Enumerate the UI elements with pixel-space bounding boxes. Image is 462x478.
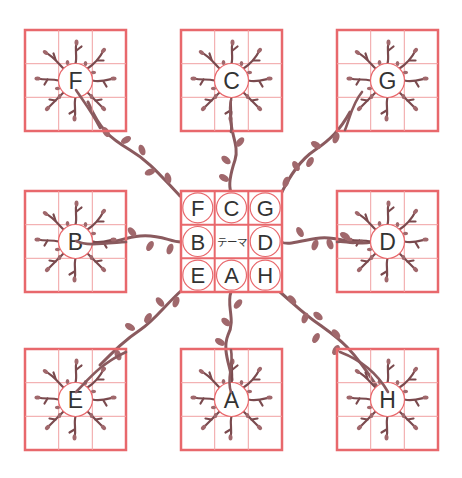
outer-box-h: H [337, 349, 438, 450]
vine-f [88, 102, 180, 196]
box-label: G [379, 68, 397, 94]
center-cell-h: H [250, 260, 280, 290]
mandala-diagram: F C G [0, 0, 462, 478]
box-label: E [68, 387, 83, 413]
vine-g [280, 112, 350, 196]
svg-text:B: B [190, 230, 205, 255]
svg-text:A: A [224, 263, 239, 288]
svg-text:C: C [224, 196, 240, 221]
svg-text:D: D [257, 230, 273, 255]
theme-label: テーマ [217, 236, 247, 248]
outer-box-e: E [25, 349, 126, 450]
outer-box-g: G [337, 30, 438, 131]
center-cell-a: A [217, 260, 247, 290]
center-cell-g: G [250, 193, 280, 223]
svg-text:H: H [257, 263, 273, 288]
center-cell-theme: テーマ [217, 236, 247, 248]
center-cell-e: E [183, 260, 213, 290]
vine-e [100, 290, 182, 365]
box-label: C [223, 68, 240, 94]
center-cell-b: B [183, 227, 213, 257]
center-cell-d: D [250, 227, 280, 257]
svg-text:G: G [257, 196, 274, 221]
outer-box-f: F [25, 30, 126, 131]
svg-text:F: F [191, 196, 204, 221]
center-cell-f: F [183, 193, 213, 223]
box-label: D [379, 229, 396, 255]
svg-text:E: E [190, 263, 205, 288]
vine-h [280, 292, 378, 388]
center-grid: F C G B テーマ D E A [181, 191, 282, 292]
center-cell-c: C [217, 193, 247, 223]
